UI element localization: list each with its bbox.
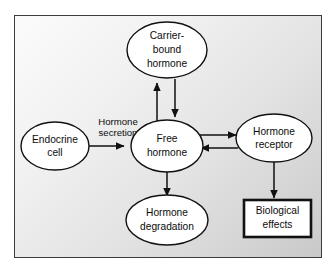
node-endocrine-cell-line1: Endocrine xyxy=(32,134,78,145)
node-biological-effects[interactable]: Biological effects xyxy=(244,200,311,237)
node-hormone-receptor-line2: receptor xyxy=(255,139,293,150)
node-free-hormone-line2: hormone xyxy=(147,147,188,158)
node-endocrine-cell[interactable]: Endocrine cell xyxy=(21,122,89,170)
node-biological-effects-line2: effects xyxy=(263,219,293,230)
node-hormone-receptor-line1: Hormone xyxy=(253,126,295,137)
node-hormone-degradation-line1: Hormone xyxy=(146,207,188,218)
node-carrier-bound-hormone[interactable]: Carrier- bound hormone xyxy=(127,22,207,78)
diagram-root: Hormone secretion Car xyxy=(0,0,335,274)
node-endocrine-cell-line2: cell xyxy=(47,147,62,158)
edge-secretion-label-line1: Hormone xyxy=(98,116,137,127)
edge-secretion-label-line2: secretion xyxy=(99,127,138,138)
node-hormone-degradation[interactable]: Hormone degradation xyxy=(126,195,208,245)
diagram-canvas: Hormone secretion Car xyxy=(0,0,335,274)
node-carrier-bound-hormone-line1: Carrier- xyxy=(150,30,185,41)
node-carrier-bound-hormone-line2: bound xyxy=(153,44,182,55)
node-free-hormone-line1: Free xyxy=(157,133,178,144)
node-carrier-bound-hormone-line3: hormone xyxy=(147,58,188,69)
node-biological-effects-line1: Biological xyxy=(256,205,300,216)
node-hormone-receptor[interactable]: Hormone receptor xyxy=(236,114,312,162)
node-hormone-degradation-line2: degradation xyxy=(140,221,194,232)
node-free-hormone[interactable]: Free hormone xyxy=(131,120,203,172)
edge-secretion: Hormone secretion xyxy=(89,116,138,146)
